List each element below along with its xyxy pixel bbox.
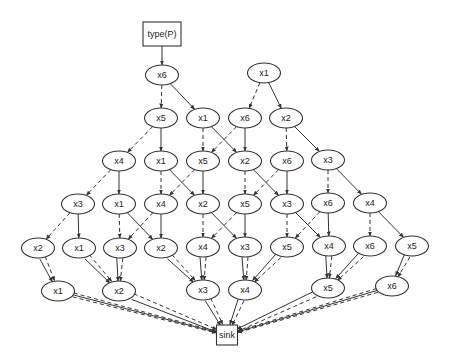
edge-dashed-r6e-to-sink <box>238 297 316 331</box>
edge-dashed-r6c-to-sink <box>211 298 223 324</box>
edge-dashed-r5h-to-r6e <box>329 256 331 278</box>
node-label: x1 <box>74 243 84 253</box>
node-label: x5 <box>282 242 292 252</box>
node-label: x2 <box>156 243 166 253</box>
node-label: x6 <box>387 281 397 291</box>
node-label: x2 <box>198 199 208 209</box>
variable-node-x1: x1 <box>248 63 281 83</box>
variable-node-x1: x1 <box>187 108 220 128</box>
variable-node-x6: x6 <box>312 193 345 213</box>
variable-node-x3: x3 <box>104 238 137 258</box>
variable-node-x2: x2 <box>103 281 136 301</box>
edge-dashed-r1a-to-r2a <box>161 85 162 108</box>
edge-solid-r6a-to-sink <box>73 295 216 332</box>
variable-node-x6: x6 <box>354 236 387 256</box>
edge-dashed-r5f-to-r6d <box>246 257 248 280</box>
edge-solid-r1a-to-r2b <box>170 84 194 110</box>
source-node-type-p: type(P) <box>143 22 181 46</box>
node-label: x5 <box>156 113 166 123</box>
variable-node-x1: x1 <box>42 281 75 301</box>
edge-solid-r5c-to-r6b <box>117 258 118 281</box>
node-label: type(P) <box>147 29 176 39</box>
node-label: x6 <box>323 198 333 208</box>
edge-solid-r4a-to-r5b <box>78 214 79 238</box>
variable-node-x5: x5 <box>229 194 262 214</box>
edge-solid-r6b-to-sink <box>132 299 216 331</box>
ordering-dag-diagram: type(P)sinkx6x1x5x1x6x2x4x1x5x2x6x3x3x1x… <box>0 0 451 364</box>
node-label: x6 <box>240 113 250 123</box>
node-label: x3 <box>240 242 250 252</box>
edge-dashed-r1b-to-r2c <box>249 83 260 109</box>
edge-dashed-r5c-to-r6b <box>120 258 122 281</box>
variable-node-x5: x5 <box>271 237 304 257</box>
edge-solid-r5d-to-r6c <box>167 259 193 283</box>
variable-node-x4: x4 <box>229 280 262 300</box>
variable-node-x5: x5 <box>145 108 178 128</box>
edge-solid-r5b-to-r6b <box>85 259 110 283</box>
edge-dashed-r2d-to-r3e <box>286 128 287 151</box>
edge-dashed-r5b-to-r6b <box>89 255 112 282</box>
edge-dashed-r6f-to-sink <box>238 292 378 332</box>
edge-solid-r5g-to-r6d <box>253 254 277 281</box>
edge-dashed-r5d-to-r6c <box>172 254 196 280</box>
variable-node-x3: x3 <box>62 194 95 214</box>
node-label: x4 <box>198 242 208 252</box>
node-label: x3 <box>73 199 83 209</box>
node-label: x6 <box>365 241 375 251</box>
edge-solid-r5e-to-r6c <box>200 257 202 280</box>
edge-dashed-r2a-to-r3a <box>127 127 152 153</box>
variable-node-x2: x2 <box>187 194 220 214</box>
variable-node-x4: x4 <box>103 151 136 171</box>
edge-dashed-r4a-to-r5a <box>46 213 70 239</box>
node-label: x2 <box>33 243 43 253</box>
node-label: x4 <box>114 156 124 166</box>
variable-node-x3: x3 <box>229 237 262 257</box>
node-label: x1 <box>114 199 124 209</box>
edge-dashed-r4b-to-r5c <box>119 214 120 238</box>
variable-node-x4: x4 <box>145 194 178 214</box>
node-label: x3 <box>198 285 208 295</box>
node-label: x1 <box>259 68 269 78</box>
edge-dashed-r6a-to-sink <box>73 297 217 333</box>
node-label: x4 <box>365 198 375 208</box>
node-label: x5 <box>240 199 250 209</box>
edge-dashed-r5i-to-r6e <box>337 257 363 281</box>
node-label: x1 <box>156 156 166 166</box>
node-label: sink <box>219 330 236 340</box>
edges-layer <box>40 46 410 333</box>
edge-solid-r2d-to-r3f <box>295 127 320 152</box>
node-label: x4 <box>156 199 166 209</box>
edge-solid-r5j-to-r6f <box>396 254 405 276</box>
variable-node-x1: x1 <box>145 151 178 171</box>
variable-node-x2: x2 <box>22 238 55 258</box>
node-label: x4 <box>324 241 334 251</box>
variable-node-x4: x4 <box>313 236 346 256</box>
edge-solid-r5f-to-r6d <box>242 257 244 280</box>
node-label: x5 <box>407 241 417 251</box>
variable-node-x6: x6 <box>271 151 304 171</box>
variable-node-x3: x3 <box>312 150 345 170</box>
variable-node-x6: x6 <box>376 276 409 296</box>
variable-node-x4: x4 <box>354 193 387 213</box>
node-label: x5 <box>198 156 208 166</box>
variable-node-x6: x6 <box>229 108 262 128</box>
node-label: x5 <box>323 283 333 293</box>
edge-solid-r4h-to-r5j <box>378 212 403 238</box>
variable-node-x6: x6 <box>146 65 179 85</box>
node-label: x2 <box>240 156 250 166</box>
variable-node-x3: x3 <box>187 280 220 300</box>
edge-solid-r5h-to-r6e <box>326 256 327 278</box>
variable-node-x5: x5 <box>187 151 220 171</box>
sink-node: sink <box>217 325 238 345</box>
variable-node-x1: x1 <box>63 238 96 258</box>
edge-solid-r4g-to-r5h <box>328 213 329 236</box>
node-label: x4 <box>240 285 250 295</box>
edge-solid-r3f-to-r4h <box>336 169 361 195</box>
edge-solid-r1b-to-r2d <box>269 83 282 109</box>
edge-dashed-r3a-to-r4a <box>86 170 110 196</box>
node-label: x2 <box>114 286 124 296</box>
node-label: x2 <box>281 113 291 123</box>
node-label: x6 <box>282 156 292 166</box>
variable-node-x2: x2 <box>145 238 178 258</box>
variable-node-x1: x1 <box>103 194 136 214</box>
